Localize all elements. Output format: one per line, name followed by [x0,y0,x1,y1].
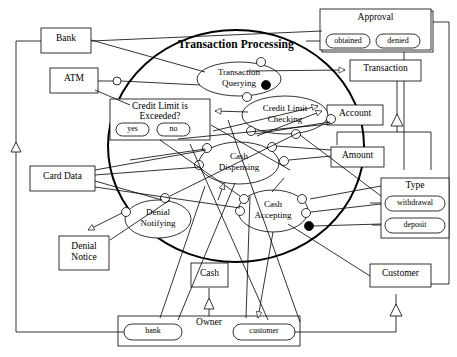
generalization-triangle-amount [391,114,403,126]
generalization-triangle-cash [204,298,214,309]
diagram-canvas: Transaction Processing Bank ATM Card Dat… [0,0,457,357]
edge-customer-to-owner [300,316,396,332]
rect-bank [41,28,91,53]
oval-no [157,123,190,136]
generalization-triangle-left [11,142,21,152]
ellipse-denial-notifying [125,200,191,238]
rect-customer [370,264,431,287]
ellipse-cash-accepting [238,190,308,232]
oval-deposit [385,218,445,233]
oval-customer-literal [233,324,295,340]
oval-obtained [326,34,370,48]
oval-withdrawal [385,196,445,211]
rect-atm [50,68,98,93]
diagram-vector-layer [0,0,457,357]
rect-denial-notice [59,236,109,270]
edge-amount-gen-left [337,126,397,145]
oval-bank-literal [124,324,182,340]
rect-account [327,105,383,125]
edge-amount-gen-right [397,132,431,170]
generalization-triangle-customer [390,304,402,316]
oval-yes [116,123,149,136]
rect-card-data [30,166,95,191]
rect-transaction [350,60,421,81]
ellipse-transaction-querying [197,62,281,96]
oval-denied [376,34,420,48]
